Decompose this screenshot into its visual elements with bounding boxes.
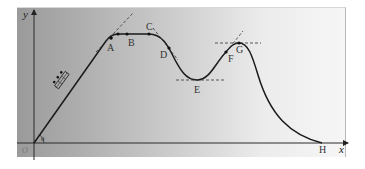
motion-curve-diagram: y x O θ A B C D E F G H bbox=[0, 0, 365, 169]
point-B-start bbox=[116, 32, 119, 35]
point-C bbox=[147, 32, 150, 35]
label-B: B bbox=[128, 37, 135, 48]
label-E: E bbox=[194, 84, 200, 95]
point-D bbox=[167, 46, 170, 49]
angle-label: θ bbox=[41, 135, 45, 143]
x-axis-label: x bbox=[338, 143, 344, 155]
label-D: D bbox=[160, 49, 167, 60]
label-H: H bbox=[319, 144, 326, 155]
cart-icon bbox=[51, 69, 69, 89]
trajectory-curve bbox=[34, 34, 322, 143]
label-C: C bbox=[146, 21, 153, 32]
label-A: A bbox=[107, 42, 115, 53]
point-B bbox=[125, 32, 128, 35]
y-axis-label: y bbox=[22, 8, 28, 20]
label-G: G bbox=[236, 44, 243, 55]
label-F: F bbox=[228, 53, 234, 64]
point-A bbox=[109, 36, 113, 40]
origin-label: O bbox=[22, 146, 28, 155]
